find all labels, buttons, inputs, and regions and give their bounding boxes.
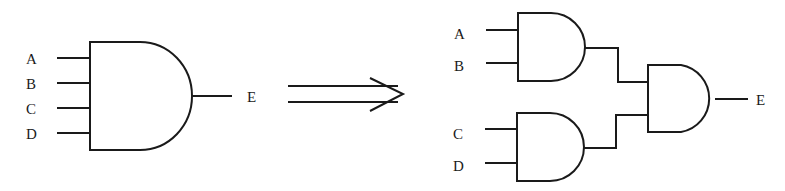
and-gate-body bbox=[518, 13, 585, 81]
and-gate-top bbox=[486, 13, 585, 81]
and-gate-body bbox=[517, 113, 584, 181]
wire-top-to-final bbox=[585, 48, 648, 82]
left-four-input-and-gate: A B C D E bbox=[26, 42, 256, 150]
label-d: D bbox=[26, 126, 37, 142]
label-a: A bbox=[26, 51, 37, 67]
label-e: E bbox=[247, 89, 256, 105]
label-c: C bbox=[453, 126, 463, 142]
logic-diagram: A B C D E A B C D bbox=[0, 0, 785, 191]
double-arrow-icon bbox=[288, 78, 403, 111]
label-b: B bbox=[26, 76, 36, 92]
and-gate-body bbox=[648, 65, 709, 132]
label-e: E bbox=[756, 92, 765, 108]
label-d: D bbox=[453, 158, 464, 174]
wire-bottom-to-final bbox=[584, 115, 648, 148]
and-gate-final bbox=[648, 65, 748, 132]
right-and-gate-tree: A B C D E bbox=[453, 13, 765, 181]
label-b: B bbox=[454, 58, 464, 74]
and-gate-body bbox=[90, 42, 192, 150]
label-a: A bbox=[454, 26, 465, 42]
label-c: C bbox=[26, 101, 36, 117]
and-gate-bottom bbox=[485, 113, 584, 181]
